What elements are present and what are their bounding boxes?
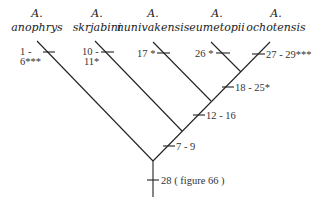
label-anophrys-2: 6*** — [20, 56, 41, 67]
cladogram: A. anophrys A. skrjabini A. nunivakensis… — [0, 0, 331, 203]
taxon-species-skrjabini: skrjabini — [73, 21, 122, 34]
taxon-genus-nunivakensis: A. — [146, 7, 158, 20]
label-node-12-16: 12 - 16 — [206, 110, 236, 121]
taxon-genus-eumetopii: A. — [210, 7, 222, 20]
taxon-species-anophrys: anophrys — [11, 21, 63, 34]
taxon-genus-skrjabini: A. — [90, 7, 102, 20]
label-node-7-9: 7 - 9 — [176, 141, 195, 152]
label-skrjabini-2: 11* — [84, 56, 99, 67]
label-nunivakensis: 17 * — [137, 48, 155, 59]
branch-eumetopii — [211, 42, 241, 72]
taxon-species-ochotensis: ochotensis — [246, 21, 306, 34]
taxon-genus-ochotensis: A. — [269, 7, 281, 20]
taxon-genus-anophrys: A. — [30, 7, 42, 20]
label-node-18-25: 18 - 25* — [235, 82, 270, 93]
taxon-species-eumetopii: eumetopii — [189, 21, 245, 34]
label-eumetopii: 26 * — [195, 48, 213, 59]
taxon-species-nunivakensis: nunivakensis — [117, 21, 190, 34]
label-root: 28 ( figure 66 ) — [161, 175, 225, 187]
label-ochotensis: 27 - 29*** — [266, 49, 312, 60]
